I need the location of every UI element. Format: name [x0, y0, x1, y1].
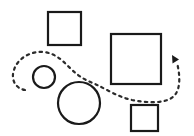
circle-large — [58, 82, 100, 124]
diagram-svg — [0, 0, 194, 136]
circle-small — [33, 66, 55, 88]
diagram-canvas — [0, 0, 194, 136]
square-large-right — [111, 34, 161, 84]
square-top-left — [48, 12, 81, 45]
square-bottom-right — [131, 105, 158, 131]
